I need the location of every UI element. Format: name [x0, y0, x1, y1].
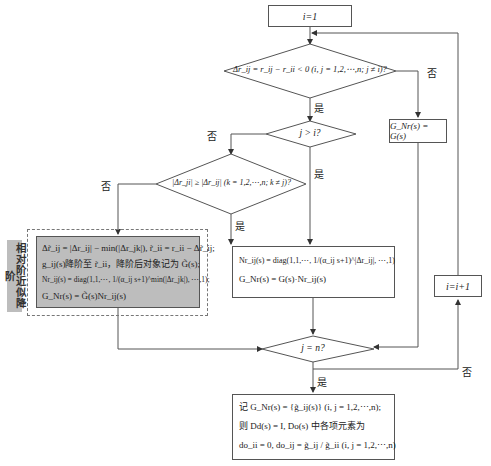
decision-relative-degree: Δr_ij = r_ij − r_ii < 0 (i, j = 1,2,⋯,n;… [228, 64, 392, 74]
decision-j-equals-n: j = n? [283, 343, 343, 353]
edge-label-yes-2: 是 [314, 166, 324, 181]
result-line-2: 则 Dd(s) = I, Do(s) 中各项元素为 [239, 417, 388, 436]
gnr-equal-g-node: G_Nr(s) = G(s) [389, 119, 447, 143]
nr-block: Nr_ij(s) = diag(1,1,⋯, 1/(α_ij s+1)^|Δr_… [232, 246, 395, 298]
approx-line-4: G_Nr(s) = G̃(s)Nr_ij(s) [42, 288, 194, 304]
nr-line-2: G_Nr(s) = G(s)·Nr_ij(s) [239, 270, 388, 288]
decision-compare-delta: |Δr_ji| ≥ |Δr_ij| (k = 1,2,⋯,n; k ≠ j)? [159, 178, 304, 187]
approx-line-3: Nr_ij(s) = diag(1,1,⋯, 1/(α_ij s+1)^min(… [42, 272, 194, 288]
start-node: i=1 [268, 5, 352, 27]
result-block: 记 G_Nr(s) = {g̃_ij(s)} (i, j = 1,2,⋯,n);… [232, 394, 395, 460]
edge-label-no-4: 否 [462, 364, 472, 379]
edge-label-no-3: 否 [101, 178, 111, 193]
gnr-equal-text: G_Nr(s) = G(s) [390, 121, 446, 141]
nr-line-1: Nr_ij(s) = diag(1,1,⋯, 1/(α_ij s+1)^|Δr_… [239, 252, 388, 270]
edge-label-yes-1: 是 [314, 100, 324, 115]
start-text: i=1 [303, 11, 318, 22]
result-line-3: do_ii = 0, do_ij = g̃_ij / g̃_ii (i, j =… [239, 436, 388, 455]
decision-j-greater-i: j > i? [280, 128, 340, 138]
increment-node: i=i+1 [434, 275, 482, 297]
approx-line-2: g_ij(s)降阶至 r̃_ii，降阶后对象记为 G̃(s); [42, 256, 194, 272]
increment-text: i=i+1 [446, 281, 470, 292]
edge-label-yes-4: 是 [317, 374, 327, 389]
approx-line-1: Δr̃_ij = |Δr_ij| − min(|Δr_jk|), r̃_ii =… [42, 240, 194, 256]
edge-label-no-1: 否 [427, 65, 437, 80]
edge-label-yes-3: 是 [235, 218, 245, 233]
side-label-relative-degree-approx: 相对阶近似降阶 [7, 240, 22, 312]
result-line-1: 记 G_Nr(s) = {g̃_ij(s)} (i, j = 1,2,⋯,n); [239, 398, 388, 417]
approx-reduction-block: Δr̃_ij = |Δr_ij| − min(|Δr_jk|), r̃_ii =… [36, 236, 200, 308]
edge-label-no-2: 否 [207, 128, 217, 143]
